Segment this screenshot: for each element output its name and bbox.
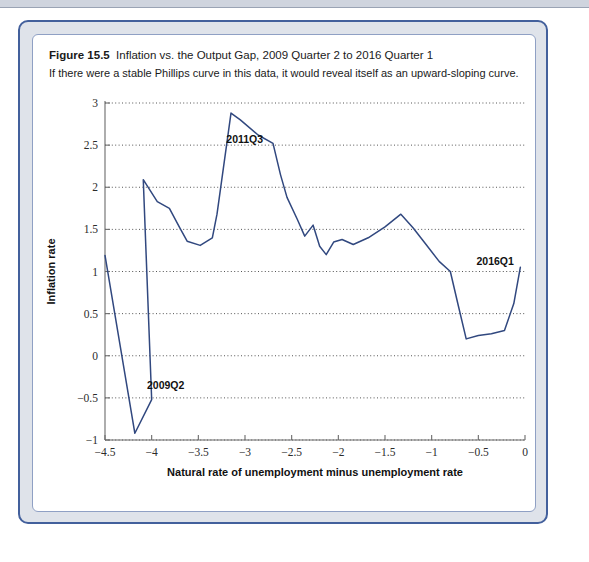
svg-text:−3.5: −3.5 [188, 446, 209, 458]
svg-text:0: 0 [522, 446, 528, 458]
data-point-labels: 2009Q22011Q32016Q1 [147, 133, 514, 391]
axis-tick-labels: −4.5−4−3.5−3−2.5−2−1.5−1−0.50−1−0.500.51… [77, 97, 528, 458]
inflation-output-gap-line-chart: −4.5−4−3.5−3−2.5−2−1.5−1−0.50−1−0.500.51… [33, 87, 535, 511]
figure-title: Inflation vs. the Output Gap, 2009 Quart… [116, 49, 433, 61]
svg-text:−1: −1 [426, 446, 438, 458]
svg-text:1: 1 [92, 266, 98, 278]
svg-text:−4: −4 [146, 446, 158, 458]
svg-text:0: 0 [92, 350, 98, 362]
svg-text:−1: −1 [86, 434, 98, 446]
svg-text:−0.5: −0.5 [468, 446, 489, 458]
x-axis-title: Natural rate of unemployment minus unemp… [167, 466, 463, 478]
svg-text:2011Q3: 2011Q3 [226, 133, 263, 145]
svg-text:−1.5: −1.5 [375, 446, 396, 458]
svg-text:2016Q1: 2016Q1 [476, 255, 514, 267]
figure-panel: Figure 15.5 Inflation vs. the Output Gap… [32, 34, 536, 512]
svg-text:−0.5: −0.5 [77, 392, 98, 404]
figure-caption-line-1: Figure 15.5 Inflation vs. the Output Gap… [49, 48, 519, 63]
figure-number: Figure 15.5 [49, 49, 110, 61]
svg-text:3: 3 [92, 97, 98, 109]
figure-outer-frame: Figure 15.5 Inflation vs. the Output Gap… [18, 20, 548, 524]
svg-text:2.5: 2.5 [84, 139, 99, 151]
svg-text:−2: −2 [332, 446, 344, 458]
chart-plot-area: −4.5−4−3.5−3−2.5−2−1.5−1−0.50−1−0.500.51… [33, 87, 535, 511]
svg-text:0.5: 0.5 [84, 308, 99, 320]
svg-text:1.5: 1.5 [84, 223, 99, 235]
y-axis-title: Inflation rate [45, 238, 57, 304]
svg-text:−3: −3 [239, 446, 251, 458]
svg-text:−2.5: −2.5 [281, 446, 302, 458]
page-top-rule [0, 0, 589, 8]
figure-caption: Figure 15.5 Inflation vs. the Output Gap… [49, 48, 519, 81]
svg-text:2: 2 [92, 181, 98, 193]
svg-text:−4.5: −4.5 [95, 446, 116, 458]
figure-subtitle: If there were a stable Phillips curve in… [49, 65, 519, 81]
svg-text:2009Q2: 2009Q2 [147, 379, 185, 391]
